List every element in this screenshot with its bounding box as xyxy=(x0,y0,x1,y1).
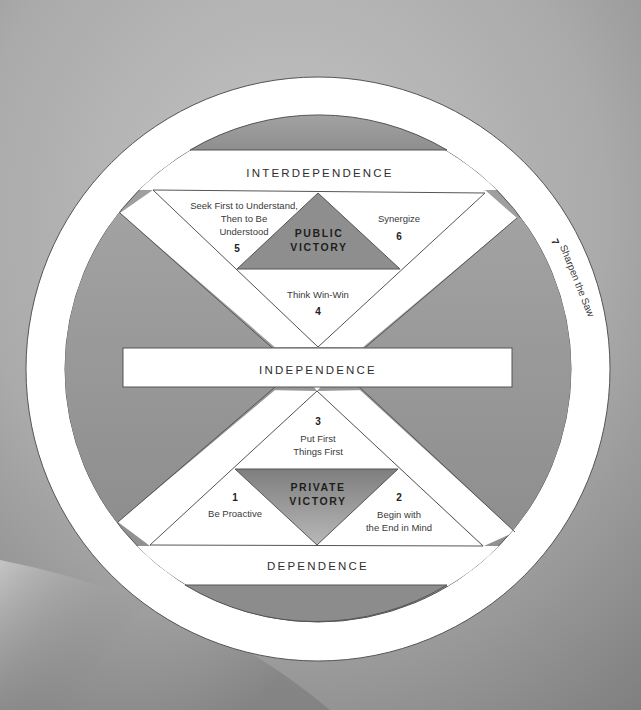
svg-text:6: 6 xyxy=(396,231,402,242)
seven-habits-diagram: INTERDEPENDENCE INDEPENDENCE DEPENDENCE … xyxy=(0,0,641,710)
svg-text:Things First: Things First xyxy=(293,446,343,457)
svg-text:Put First: Put First xyxy=(300,433,336,444)
level-independence: INDEPENDENCE xyxy=(259,364,377,376)
svg-text:Understood: Understood xyxy=(219,226,268,237)
svg-text:Synergize: Synergize xyxy=(378,213,420,224)
svg-text:4: 4 xyxy=(315,306,321,317)
svg-text:Be Proactive: Be Proactive xyxy=(208,508,262,519)
public-victory-label-1: PUBLIC xyxy=(295,227,344,239)
svg-text:Then to Be: Then to Be xyxy=(221,213,267,224)
public-victory-label-2: VICTORY xyxy=(290,241,347,253)
svg-text:Seek First to Understand,: Seek First to Understand, xyxy=(190,200,298,211)
svg-text:3: 3 xyxy=(315,416,321,427)
level-interdependence: INTERDEPENDENCE xyxy=(246,167,393,179)
private-victory-label-2: VICTORY xyxy=(289,495,346,507)
level-dependence: DEPENDENCE xyxy=(267,560,369,572)
svg-text:the End in Mind: the End in Mind xyxy=(366,522,432,533)
svg-text:5: 5 xyxy=(234,243,240,254)
svg-text:Think Win-Win: Think Win-Win xyxy=(287,289,349,300)
svg-text:2: 2 xyxy=(396,492,402,503)
private-victory-label-1: PRIVATE xyxy=(290,481,345,493)
svg-text:Begin with: Begin with xyxy=(377,509,421,520)
svg-text:1: 1 xyxy=(232,492,238,503)
